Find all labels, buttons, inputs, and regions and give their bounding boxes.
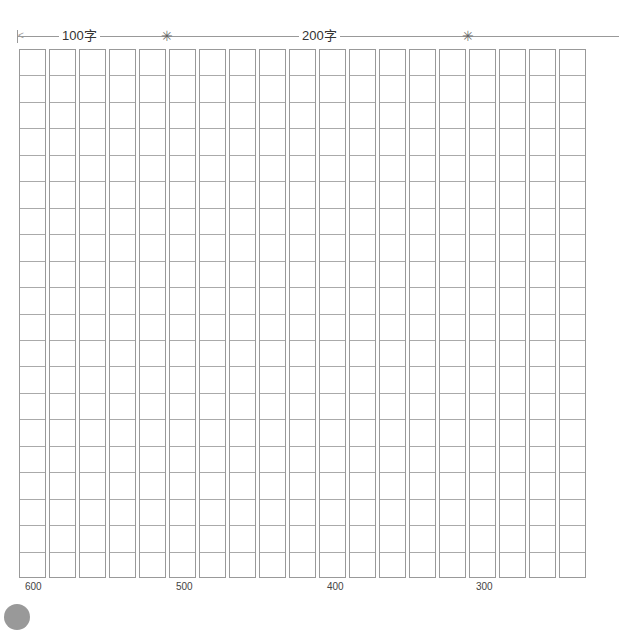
row-divider (200, 287, 225, 288)
row-divider (50, 340, 75, 341)
row-divider (410, 314, 435, 315)
row-divider (200, 419, 225, 420)
row-divider (200, 340, 225, 341)
row-divider (500, 525, 525, 526)
row-divider (110, 340, 135, 341)
row-divider (440, 419, 465, 420)
row-divider (560, 128, 585, 129)
row-divider (200, 234, 225, 235)
row-divider (470, 234, 495, 235)
row-divider (80, 128, 105, 129)
row-divider (560, 472, 585, 473)
row-divider (350, 261, 375, 262)
row-divider (290, 181, 315, 182)
asterisk-marker-icon: ✳ (461, 28, 475, 44)
row-divider (200, 314, 225, 315)
row-divider (110, 446, 135, 447)
row-divider (140, 552, 165, 553)
row-divider (110, 393, 135, 394)
row-divider (410, 261, 435, 262)
grid-column (559, 49, 586, 578)
row-divider (290, 340, 315, 341)
row-divider (320, 181, 345, 182)
row-divider (290, 393, 315, 394)
row-divider (530, 552, 555, 553)
row-divider (140, 181, 165, 182)
row-divider (530, 155, 555, 156)
row-divider (110, 75, 135, 76)
row-divider (170, 393, 195, 394)
row-divider (260, 552, 285, 553)
row-divider (140, 102, 165, 103)
character-count-number: 600 (25, 581, 42, 592)
row-divider (410, 287, 435, 288)
row-divider (350, 181, 375, 182)
row-divider (410, 75, 435, 76)
row-divider (470, 499, 495, 500)
row-divider (560, 393, 585, 394)
row-divider (320, 128, 345, 129)
row-divider (500, 393, 525, 394)
row-divider (260, 102, 285, 103)
row-divider (140, 340, 165, 341)
row-divider (50, 234, 75, 235)
row-divider (530, 446, 555, 447)
row-divider (80, 525, 105, 526)
row-divider (560, 525, 585, 526)
row-divider (170, 102, 195, 103)
row-divider (20, 525, 45, 526)
row-divider (140, 261, 165, 262)
row-divider (260, 499, 285, 500)
row-divider (320, 314, 345, 315)
row-divider (80, 446, 105, 447)
row-divider (50, 208, 75, 209)
row-divider (50, 393, 75, 394)
row-divider (260, 340, 285, 341)
row-divider (380, 314, 405, 315)
row-divider (530, 340, 555, 341)
row-divider (380, 102, 405, 103)
row-divider (410, 340, 435, 341)
row-divider (320, 234, 345, 235)
row-divider (470, 552, 495, 553)
row-divider (500, 499, 525, 500)
row-divider (380, 419, 405, 420)
row-divider (410, 234, 435, 235)
row-divider (320, 552, 345, 553)
row-divider (230, 340, 255, 341)
row-divider (80, 102, 105, 103)
row-divider (200, 446, 225, 447)
row-divider (380, 393, 405, 394)
row-divider (380, 499, 405, 500)
row-divider (560, 552, 585, 553)
row-divider (380, 366, 405, 367)
row-divider (470, 287, 495, 288)
row-divider (20, 314, 45, 315)
row-divider (110, 208, 135, 209)
row-divider (320, 208, 345, 209)
row-divider (350, 552, 375, 553)
row-divider (170, 366, 195, 367)
row-divider (110, 419, 135, 420)
row-divider (260, 261, 285, 262)
row-divider (350, 446, 375, 447)
row-divider (80, 75, 105, 76)
row-divider (290, 128, 315, 129)
row-divider (80, 499, 105, 500)
row-divider (110, 314, 135, 315)
row-divider (410, 446, 435, 447)
row-divider (20, 552, 45, 553)
row-divider (500, 102, 525, 103)
row-divider (170, 287, 195, 288)
row-divider (440, 261, 465, 262)
row-divider (110, 102, 135, 103)
row-divider (260, 181, 285, 182)
row-divider (440, 393, 465, 394)
row-divider (380, 234, 405, 235)
row-divider (80, 419, 105, 420)
grid-column (199, 49, 226, 578)
row-divider (170, 181, 195, 182)
row-divider (560, 261, 585, 262)
row-divider (470, 393, 495, 394)
row-divider (200, 102, 225, 103)
